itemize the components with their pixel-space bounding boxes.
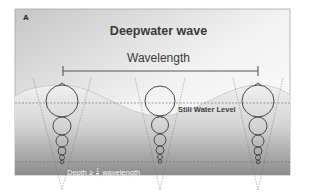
diagram-title: Deepwater wave bbox=[0, 24, 317, 38]
one-half-fraction: 1 2 bbox=[96, 168, 99, 179]
still-water-level-label: Still Water Level bbox=[178, 105, 236, 114]
panel-label: A bbox=[23, 13, 29, 22]
wavelength-label: Wavelength bbox=[0, 51, 317, 65]
fraction-denominator: 2 bbox=[96, 174, 99, 179]
depth-label: Depth ≥ 1 2 wavelength bbox=[67, 168, 140, 179]
depth-suffix: wavelength bbox=[102, 168, 140, 177]
deepwater-wave-figure: A Deepwater wave Wavelength Still Water … bbox=[0, 0, 317, 192]
depth-prefix: Depth ≥ bbox=[67, 168, 93, 177]
